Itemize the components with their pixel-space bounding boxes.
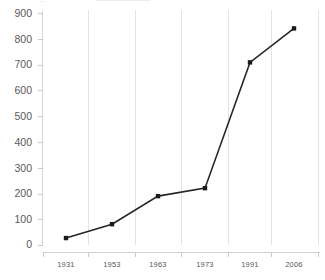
data-point-marker (248, 60, 252, 64)
y-tick-label: 300 (14, 162, 32, 174)
data-point-marker (203, 186, 207, 190)
data-point-marker (64, 236, 68, 240)
x-tick-label: 1963 (149, 260, 167, 269)
y-tick-label: 500 (14, 110, 32, 122)
y-tick-label: 200 (14, 187, 32, 199)
chart-canvas: 900 800 700 600 500 400 300 200 100 0 19… (0, 0, 325, 280)
y-tick-label: 700 (14, 58, 32, 70)
y-tick-label: 0 (26, 238, 32, 250)
data-point-marker (292, 26, 296, 30)
line-chart: 900 800 700 600 500 400 300 200 100 0 19… (0, 0, 325, 280)
x-tick-label: 1931 (57, 260, 75, 269)
y-tick-label: 100 (14, 213, 32, 225)
y-tick-label: 900 (14, 7, 32, 19)
x-tick-label: 1991 (241, 260, 259, 269)
y-tick-label: 800 (14, 33, 32, 45)
y-tick-label: 600 (14, 84, 32, 96)
x-tick-label: 2006 (285, 260, 303, 269)
x-tick-label: 1973 (196, 260, 214, 269)
x-tick-label: 1953 (103, 260, 121, 269)
y-tick-label: 400 (14, 136, 32, 148)
data-point-marker (110, 222, 114, 226)
data-point-marker (156, 194, 160, 198)
